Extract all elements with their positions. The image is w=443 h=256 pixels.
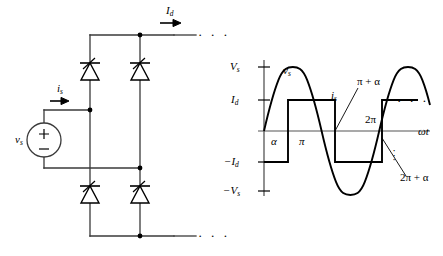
is-arrow-icon: [50, 97, 69, 104]
node-bottom-right: [138, 234, 143, 239]
input-current-label: is: [57, 83, 63, 95]
x-tick-label-pi-plus-alpha: π + α: [357, 76, 380, 87]
series-label-vs: vs: [283, 65, 291, 77]
x-tick-label-two-pi: 2π: [365, 114, 376, 125]
waveform-diagonal-continuation-dots: · · ·: [389, 148, 399, 162]
y-axis-label-vs: Vs: [230, 61, 240, 73]
id-arrow-icon: [160, 19, 181, 26]
current-arrows: [50, 19, 181, 104]
x-axis-label-omega-t: ωt: [418, 126, 429, 137]
x-tick-label-two-pi-plus-alpha: 2π + α: [400, 172, 429, 183]
figure-thyristor-bridge-and-waveforms: vs is Id · · · · · · Vs Id −Id −Vs α π: [0, 0, 443, 256]
node-right-mid: [138, 166, 143, 171]
y-axis-label-neg-vs: −Vs: [223, 185, 240, 197]
waveform-right-continuation-dots: · · ·: [397, 94, 429, 107]
node-top-right: [138, 33, 143, 38]
waveform-chart: [222, 0, 443, 256]
x-tick-label-alpha: α: [271, 136, 277, 147]
node-left-mid: [88, 108, 93, 113]
x-tick-label-pi: π: [299, 136, 305, 147]
dc-current-label: Id: [166, 5, 173, 17]
series-label-is: is: [331, 90, 337, 102]
y-axis-label-id: Id: [231, 94, 238, 106]
voltage-source-symbol: [27, 123, 61, 157]
leader-pi-plus-alpha: [335, 88, 358, 131]
source-label: vs: [15, 134, 23, 146]
circuit-diagram: [0, 0, 222, 256]
y-axis-label-neg-id: −Id: [224, 156, 239, 168]
